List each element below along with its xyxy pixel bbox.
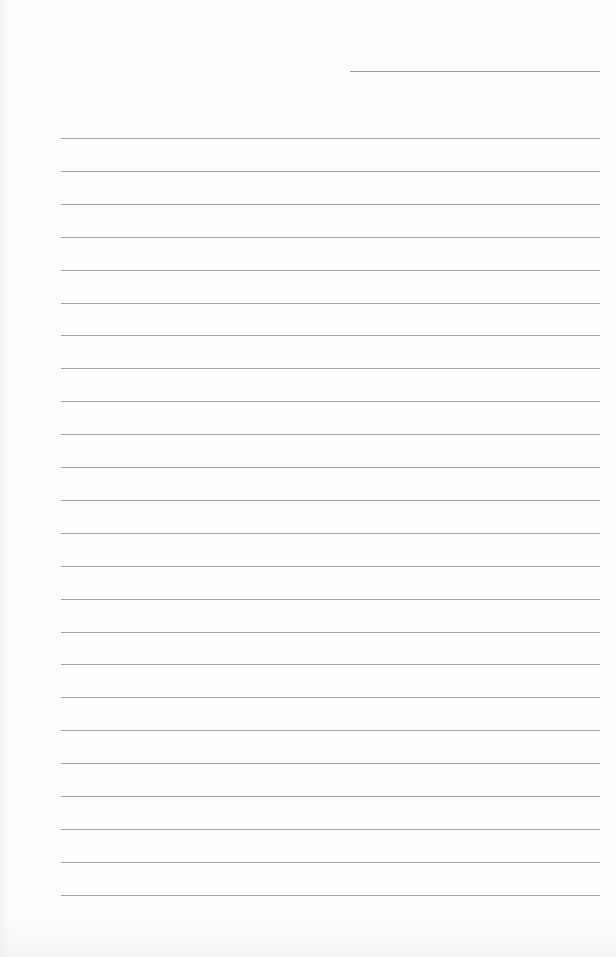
ruled-line — [61, 599, 600, 600]
ruled-line — [61, 303, 600, 304]
ruled-line — [61, 796, 600, 797]
ruled-line — [61, 335, 600, 336]
ruled-line — [61, 138, 600, 139]
ruled-line — [61, 204, 600, 205]
ruled-line — [61, 895, 600, 896]
paper-bottom-shadow — [0, 917, 616, 957]
ruled-line — [61, 697, 600, 698]
ruled-line — [61, 401, 600, 402]
ruled-line — [61, 763, 600, 764]
paper-edge-shadow — [0, 0, 10, 957]
ruled-line — [61, 467, 600, 468]
ruled-line — [61, 566, 600, 567]
lined-paper-sheet — [0, 0, 616, 957]
ruled-line — [61, 171, 600, 172]
ruled-line — [61, 270, 600, 271]
ruled-line — [61, 664, 600, 665]
ruled-line — [61, 533, 600, 534]
ruled-line — [61, 730, 600, 731]
ruled-line — [61, 368, 600, 369]
ruled-line — [61, 500, 600, 501]
ruled-line — [61, 434, 600, 435]
ruled-line — [61, 829, 600, 830]
ruled-line — [61, 862, 600, 863]
header-name-line — [350, 71, 600, 72]
ruled-line — [61, 237, 600, 238]
ruled-line — [61, 632, 600, 633]
